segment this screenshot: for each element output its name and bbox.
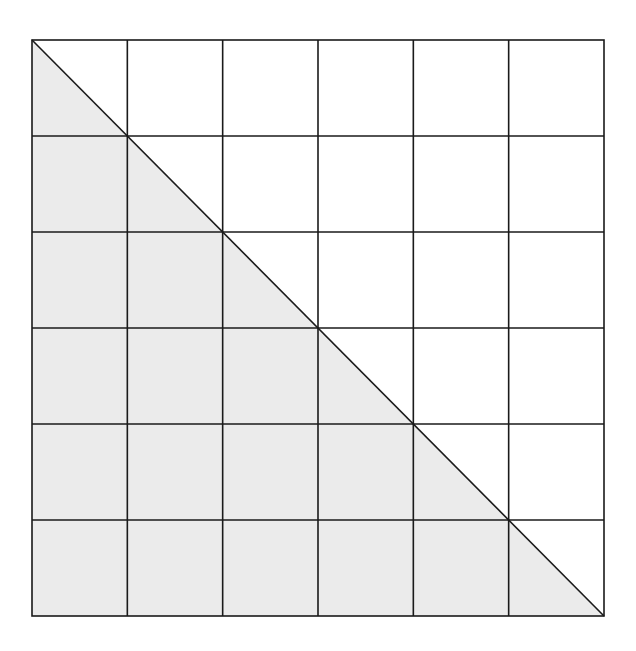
grid-diagram: [0, 0, 636, 651]
